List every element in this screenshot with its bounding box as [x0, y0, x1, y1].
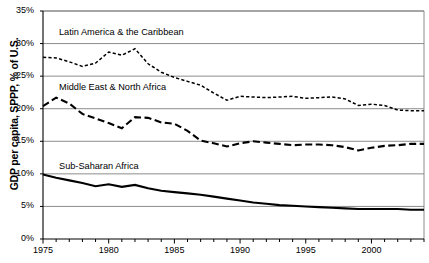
- x-tick-label: 1975: [23, 246, 63, 255]
- y-tick-label: 15%: [0, 136, 34, 145]
- series-label-ssa: Sub-Saharan Africa: [59, 161, 139, 171]
- plot-area: [0, 0, 429, 263]
- series-label-mena: Middle East & North Africa: [59, 82, 166, 92]
- y-tick-label: 0%: [0, 234, 34, 243]
- x-tick-label: 1985: [154, 246, 194, 255]
- series-line-1: [43, 98, 424, 151]
- x-tick-label: 1980: [89, 246, 129, 255]
- y-tick-label: 25%: [0, 71, 34, 80]
- chart-container: GDP per capita, SPPP, % of U.S. 0%5%10%1…: [0, 0, 429, 263]
- y-tick-label: 35%: [0, 6, 34, 15]
- x-tick-label: 1990: [220, 246, 260, 255]
- series-label-lac: Latin America & the Caribbean: [59, 27, 184, 37]
- x-tick-label: 2000: [351, 246, 391, 255]
- x-tick-label: 1995: [286, 246, 326, 255]
- y-tick-label: 30%: [0, 39, 34, 48]
- y-tick-label: 20%: [0, 104, 34, 113]
- y-tick-label: 5%: [0, 201, 34, 210]
- series-line-0: [43, 49, 424, 111]
- series-line-2: [43, 175, 424, 210]
- y-tick-label: 10%: [0, 169, 34, 178]
